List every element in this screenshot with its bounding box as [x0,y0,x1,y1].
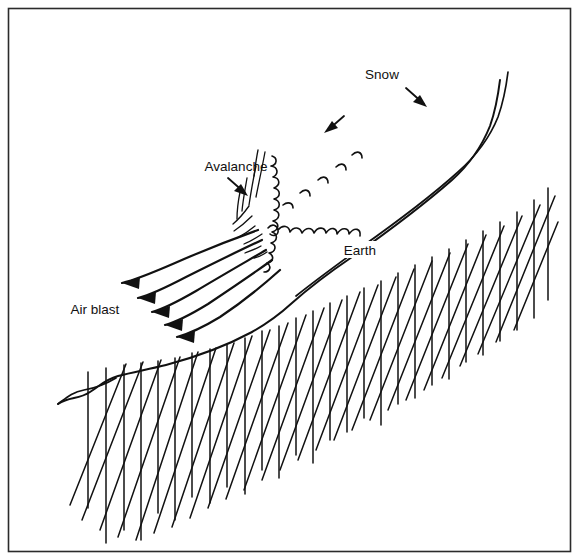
streamline-1-arrowhead [122,277,140,289]
snow-annotation: Snow [365,67,427,107]
streamline-5-arrowhead [177,331,195,343]
air-blast-label: Air blast [71,302,120,317]
snow-top-surface [296,72,508,296]
avalanche-direction-arrow [324,116,344,133]
disturbed-snow-scallops [268,152,362,236]
streamline-4 [165,260,272,325]
earth-label: Earth [344,243,376,258]
snow-label: Snow [365,67,399,82]
streamline-2-arrowhead [138,292,156,304]
diagram-canvas: Avalanche air blast cross-section diagra… [0,0,579,560]
earth-cross-section-hatching [70,188,558,543]
figure-border [9,9,571,552]
air-blast-streamlines [122,230,280,343]
earth-annotation: Earth [338,241,382,258]
hatch-diagonal-lines [70,196,558,540]
streamline-5 [177,270,280,337]
avalanche-label: Avalanche [205,159,268,174]
snow-layer-band [296,72,508,296]
avalanche-diagram-figure: Avalanche air blast cross-section diagra… [0,0,579,560]
air-blast-annotation: Air blast [71,302,120,317]
